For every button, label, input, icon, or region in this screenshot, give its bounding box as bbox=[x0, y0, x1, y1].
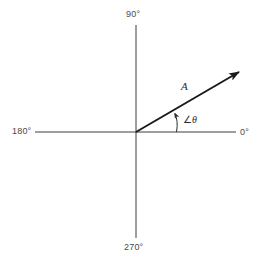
axis-label-180-degrees: 180° bbox=[12, 126, 31, 136]
phasor-diagram-canvas bbox=[0, 0, 264, 267]
axis-label-270-degrees: 270° bbox=[124, 242, 143, 252]
phasor-diagram-figure: 90° 180° 0° 270° A ∠θ bbox=[0, 0, 264, 267]
axis-label-90-degrees: 90° bbox=[126, 9, 140, 19]
angle-symbol: ∠ bbox=[183, 114, 192, 125]
angle-arc bbox=[175, 114, 177, 133]
angle-theta-label: ∠θ bbox=[183, 114, 197, 125]
axis-label-0-degrees: 0° bbox=[240, 127, 249, 137]
theta-symbol: θ bbox=[192, 114, 197, 125]
vector-a-label: A bbox=[181, 80, 188, 92]
